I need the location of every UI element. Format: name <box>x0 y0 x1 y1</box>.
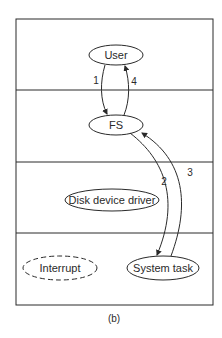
node-user-label: User <box>104 49 128 61</box>
node-interrupt-label: Interrupt <box>40 262 81 274</box>
node-fs-label: FS <box>109 119 123 131</box>
edge-4-label: 4 <box>131 76 137 87</box>
edge-1-label: 1 <box>93 75 99 86</box>
node-disk-driver-label: Disk device driver <box>69 194 156 206</box>
diagram-canvas: User FS Disk device driver Interrupt Sys… <box>0 0 222 338</box>
node-system-task: System task <box>127 256 199 280</box>
edge-2-label: 2 <box>161 176 167 187</box>
edge-3-label: 3 <box>187 167 193 178</box>
node-user: User <box>89 45 143 65</box>
figure-caption: (b) <box>108 313 120 324</box>
node-system-task-label: System task <box>133 262 193 274</box>
node-fs: FS <box>89 115 143 135</box>
node-interrupt: Interrupt <box>23 256 97 280</box>
node-disk-driver: Disk device driver <box>65 189 159 211</box>
